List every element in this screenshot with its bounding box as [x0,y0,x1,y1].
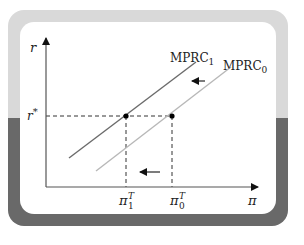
pi1-superscript: T [128,191,135,201]
pi1-subscript: 1 [128,201,134,211]
mprc0-label-subscript: 0 [262,65,268,75]
pi0-base: π [169,193,179,208]
mprc1-label-subscript: 1 [209,57,215,67]
mprc1-label-base: MPRC [170,51,209,65]
mprc1-label: MPRC1 [170,51,214,67]
pi0-subscript: 0 [179,201,185,211]
pi1-base: π [118,193,128,208]
pi1-label: π [118,193,128,208]
equilibrium-point-0 [169,113,174,118]
r-star-superscript: * [33,106,38,117]
x-axis-label: π [247,193,257,208]
diagram-canvas: r π r* MPRC1 MPRC0 π T 1 π T 0 [0,0,304,245]
pi0-label: π [169,193,179,208]
pi0-superscript: T [179,191,186,201]
diagram-panel [20,22,276,214]
mprc0-label-base: MPRC [223,59,262,73]
y-axis-label: r [30,40,37,55]
mprc0-label: MPRC0 [223,59,268,75]
equilibrium-point-1 [123,113,128,118]
